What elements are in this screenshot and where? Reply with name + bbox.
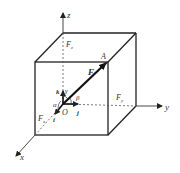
unit-j-label: j: [76, 109, 79, 117]
fx-label: Fx: [37, 114, 46, 124]
cube-top-left-edge: [35, 33, 63, 62]
cube-bottom-right-edge: [108, 106, 136, 135]
origin-label: O: [62, 108, 68, 117]
alpha-label: α: [53, 101, 57, 109]
unit-k-label: k: [56, 88, 60, 96]
unit-i-label: i: [53, 116, 55, 124]
force-label: F: [87, 67, 94, 77]
z-axis-label: z: [66, 10, 71, 20]
x-axis-label: x: [19, 152, 24, 162]
cube-top-right-edge: [108, 33, 136, 62]
y-axis-label: y: [164, 102, 169, 112]
beta-arc: [70, 98, 71, 104]
force-vector-f: [63, 63, 106, 104]
x-axis: [16, 135, 35, 156]
gamma-label: γ: [65, 87, 68, 95]
fz-label: Fz: [65, 40, 73, 50]
point-a-label: A: [100, 52, 106, 61]
fy-label: Fy: [115, 93, 124, 103]
beta-label: β: [75, 94, 80, 102]
force-cube-diagram: z y x A O F Fz Fy Fx k j i γ β α: [0, 0, 180, 173]
